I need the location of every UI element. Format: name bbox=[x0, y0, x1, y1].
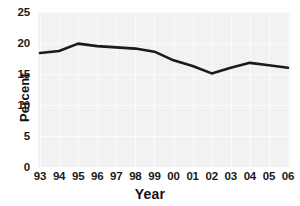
x-tick-label: 93 bbox=[34, 170, 46, 182]
x-tick-label: 99 bbox=[148, 170, 160, 182]
y-tick-label: 0 bbox=[24, 161, 30, 173]
x-tick-label: 96 bbox=[91, 170, 103, 182]
x-tick-label: 98 bbox=[129, 170, 141, 182]
y-axis-title: Percent bbox=[17, 43, 32, 153]
x-tick-label: 01 bbox=[186, 170, 198, 182]
x-tick-label: 94 bbox=[53, 170, 65, 182]
x-tick-label: 06 bbox=[282, 170, 294, 182]
x-tick-label: 00 bbox=[167, 170, 179, 182]
x-tick-label: 05 bbox=[263, 170, 275, 182]
plot-area bbox=[38, 12, 290, 167]
x-tick-label: 04 bbox=[244, 170, 256, 182]
line-chart: 0510152025 Percent 939495969798990001020… bbox=[0, 0, 300, 206]
data-line bbox=[40, 44, 288, 74]
x-tick-label: 95 bbox=[72, 170, 84, 182]
x-tick-label: 02 bbox=[205, 170, 217, 182]
x-tick-label: 03 bbox=[225, 170, 237, 182]
series-line-percent bbox=[38, 12, 290, 167]
x-tick-label: 97 bbox=[110, 170, 122, 182]
x-axis-title: Year bbox=[0, 186, 300, 202]
y-tick-label: 25 bbox=[18, 6, 30, 18]
x-axis-ticks: 9394959697989900010203040506 bbox=[38, 170, 290, 186]
